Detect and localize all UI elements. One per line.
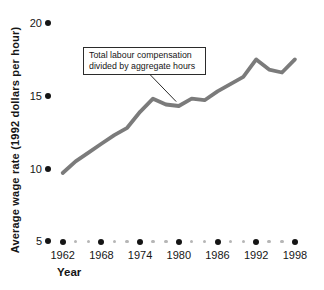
x-tick-label-1980: 1980 <box>162 249 196 261</box>
x-tick-dot-1994 <box>267 240 271 244</box>
x-tick-dot-1998 <box>292 239 298 245</box>
x-tick-dot-1996 <box>280 240 284 244</box>
x-tick-label-1986: 1986 <box>201 249 235 261</box>
x-tick-label-1992: 1992 <box>239 249 273 261</box>
x-axis-label: Year <box>57 266 81 278</box>
x-tick-label-1968: 1968 <box>84 249 118 261</box>
x-tick-dot-1968 <box>98 239 104 245</box>
x-tick-dot-1962 <box>60 239 66 245</box>
y-tick-label-20: 20 <box>18 17 42 29</box>
annotation-text-line1: Total labour compensation <box>89 50 203 61</box>
wage-rate-line-series <box>63 59 295 173</box>
annotation-text-line2: divided by aggregate hours <box>89 61 203 72</box>
y-tick-dot-15 <box>45 93 51 99</box>
wage-line-chart <box>0 0 324 290</box>
annotation-callout: Total labour compensation divided by agg… <box>83 47 206 75</box>
y-tick-dot-20 <box>45 20 51 26</box>
y-tick-dot-5 <box>45 238 51 244</box>
x-tick-dot-1992 <box>253 239 259 245</box>
x-tick-dot-1978 <box>164 240 168 244</box>
x-tick-dot-1980 <box>176 239 182 245</box>
x-tick-label-1962: 1962 <box>46 249 80 261</box>
x-tick-dot-1986 <box>215 239 221 245</box>
y-tick-label-5: 5 <box>18 235 42 247</box>
figure-average-wage-rate: Average wage rate (1992 dollars per hour… <box>0 0 324 290</box>
y-axis-label: Average wage rate (1992 dollars per hour… <box>9 27 21 254</box>
x-tick-dot-1976 <box>151 240 155 244</box>
y-tick-dot-10 <box>45 166 51 172</box>
y-tick-label-15: 15 <box>18 90 42 102</box>
x-tick-label-1974: 1974 <box>123 249 157 261</box>
x-tick-dot-1974 <box>137 239 143 245</box>
x-tick-label-1998: 1998 <box>278 249 312 261</box>
y-tick-label-10: 10 <box>18 163 42 175</box>
